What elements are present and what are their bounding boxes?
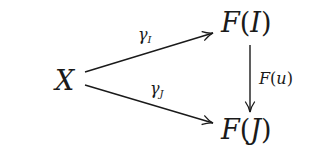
label-f-u: F(u) xyxy=(259,71,293,87)
label-f-u-arg: u xyxy=(276,69,286,88)
node-f-i-open: ( xyxy=(240,7,251,38)
node-f-j-func: F xyxy=(221,114,240,145)
arrow-gamma-j xyxy=(85,85,213,123)
node-f-i: F(I) xyxy=(221,9,272,36)
node-x-symbol: X xyxy=(55,65,74,96)
label-gamma-i: γI xyxy=(138,27,152,45)
label-gamma-i-sub: I xyxy=(148,34,152,45)
node-f-i-arg: I xyxy=(250,7,261,38)
node-f-j-arg: J xyxy=(250,114,261,145)
node-x: X xyxy=(55,67,74,94)
node-f-i-close: ) xyxy=(261,7,272,38)
node-f-j: F(J) xyxy=(221,116,272,143)
label-gamma-j-base: γ xyxy=(150,79,160,98)
label-f-u-close: ) xyxy=(287,69,293,88)
label-gamma-i-base: γ xyxy=(138,25,148,44)
node-f-j-close: ) xyxy=(261,114,272,145)
label-f-u-func: F xyxy=(259,69,270,88)
commutative-diagram: X F(I) F(J) γI γJ F(u) xyxy=(0,0,317,154)
label-gamma-j-sub: J xyxy=(160,88,164,99)
label-gamma-j: γJ xyxy=(150,81,164,99)
node-f-j-open: ( xyxy=(240,114,251,145)
node-f-i-func: F xyxy=(221,7,240,38)
